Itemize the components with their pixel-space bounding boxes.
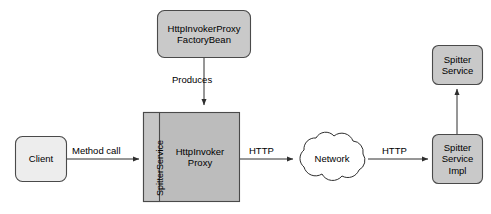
node-spitter-service-impl-shape[interactable] (433, 135, 483, 184)
edge-produces-label: Produces (172, 74, 212, 85)
edge-method-call-label: Method call (72, 145, 121, 156)
edge-http-out-label: HTTP (249, 145, 274, 156)
edge-http-in-label: HTTP (382, 145, 407, 156)
node-spitter-service-strip-label: SpitterService (155, 140, 165, 196)
diagram-canvas: Client HttpInvokerProxy FactoryBean Http… (0, 0, 491, 214)
node-client-shape[interactable] (16, 137, 67, 182)
node-spitter-service-shape[interactable] (433, 46, 483, 85)
node-factory-bean-shape[interactable] (158, 11, 251, 58)
node-network-cloud-shape[interactable] (300, 132, 365, 180)
diagram-vector-layer (0, 0, 491, 214)
